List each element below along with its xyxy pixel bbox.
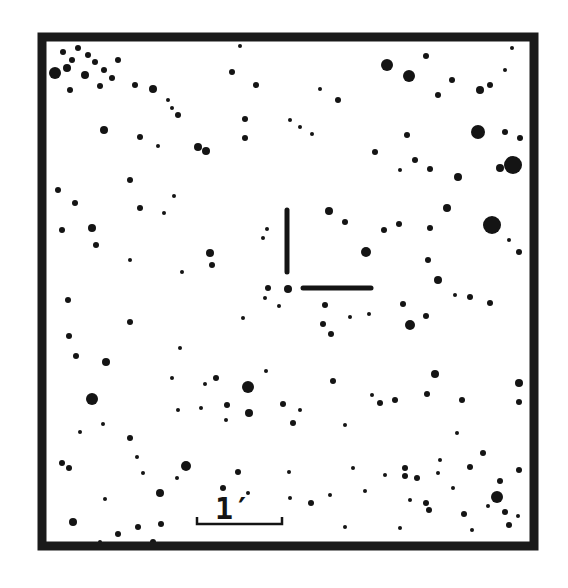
star xyxy=(135,455,139,459)
star xyxy=(242,381,254,393)
star xyxy=(170,106,174,110)
star xyxy=(49,67,61,79)
star xyxy=(392,397,398,403)
star xyxy=(127,177,133,183)
star xyxy=(97,83,103,89)
star xyxy=(265,285,271,291)
star xyxy=(480,450,486,456)
star xyxy=(453,293,457,297)
star xyxy=(476,86,484,94)
star xyxy=(402,473,408,479)
star xyxy=(199,406,203,410)
star xyxy=(101,67,107,73)
star xyxy=(81,71,89,79)
star xyxy=(383,473,387,477)
star xyxy=(517,135,523,141)
star xyxy=(398,526,402,530)
star xyxy=(241,316,245,320)
star xyxy=(414,475,420,481)
star xyxy=(330,378,336,384)
star xyxy=(59,460,65,466)
star xyxy=(423,313,429,319)
star xyxy=(449,77,455,83)
star xyxy=(424,391,430,397)
star xyxy=(310,132,314,136)
star xyxy=(361,247,371,257)
star xyxy=(516,399,522,405)
star xyxy=(242,135,248,141)
star xyxy=(290,420,296,426)
star xyxy=(400,301,406,307)
star xyxy=(69,518,77,526)
star xyxy=(175,112,181,118)
star xyxy=(308,500,314,506)
star xyxy=(72,200,78,206)
star xyxy=(101,422,105,426)
star xyxy=(175,476,179,480)
star xyxy=(66,333,72,339)
star xyxy=(85,52,91,58)
star xyxy=(431,370,439,378)
star xyxy=(128,258,132,262)
star xyxy=(166,98,170,102)
star xyxy=(426,507,432,513)
star xyxy=(487,82,493,88)
star xyxy=(69,57,75,63)
star xyxy=(343,525,347,529)
star xyxy=(516,249,522,255)
star xyxy=(65,297,71,303)
star xyxy=(322,302,328,308)
star xyxy=(335,97,341,103)
star xyxy=(451,486,455,490)
star xyxy=(461,511,467,517)
star xyxy=(487,300,493,306)
star xyxy=(284,285,292,293)
star xyxy=(280,401,286,407)
star xyxy=(141,471,145,475)
star xyxy=(67,87,73,93)
star xyxy=(102,358,110,366)
star xyxy=(403,70,415,82)
star xyxy=(277,304,281,308)
star xyxy=(496,164,504,172)
star xyxy=(298,408,302,412)
star xyxy=(59,227,65,233)
star xyxy=(115,531,121,537)
star xyxy=(438,458,442,462)
star xyxy=(137,205,143,211)
star xyxy=(325,207,333,215)
star xyxy=(515,379,523,387)
star xyxy=(75,45,81,51)
star xyxy=(86,393,98,405)
star xyxy=(363,489,367,493)
star xyxy=(224,418,228,422)
star xyxy=(502,509,508,515)
star xyxy=(172,194,176,198)
star xyxy=(425,257,431,263)
star xyxy=(455,431,459,435)
star xyxy=(194,143,202,151)
star xyxy=(404,132,410,138)
star xyxy=(245,409,253,417)
star xyxy=(367,312,371,316)
star xyxy=(454,173,462,181)
star xyxy=(224,402,230,408)
star xyxy=(263,296,267,300)
star xyxy=(229,69,235,75)
star xyxy=(427,225,433,231)
star xyxy=(343,423,347,427)
star xyxy=(504,156,522,174)
star xyxy=(235,469,241,475)
star xyxy=(372,149,378,155)
star xyxy=(73,353,79,359)
star xyxy=(92,59,98,65)
star xyxy=(265,227,269,231)
star xyxy=(377,400,383,406)
star xyxy=(298,125,302,129)
star xyxy=(471,125,485,139)
star xyxy=(507,238,511,242)
star xyxy=(149,85,157,93)
star xyxy=(381,227,387,233)
star xyxy=(206,249,214,257)
star xyxy=(436,471,440,475)
